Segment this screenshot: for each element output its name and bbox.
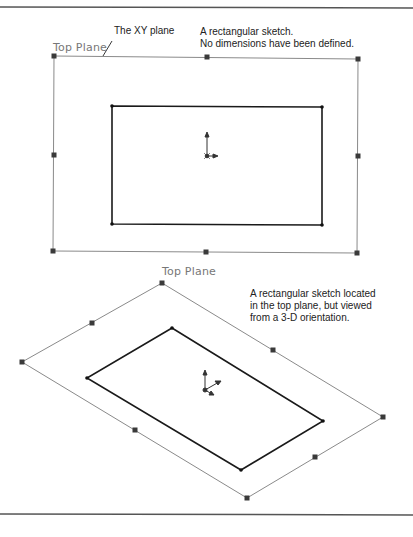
plane-handle[interactable]: [20, 360, 25, 365]
plane-handle[interactable]: [90, 321, 95, 326]
sketch-vertex[interactable]: [320, 105, 324, 109]
sketch-vertex[interactable]: [110, 222, 114, 226]
callout-xy-plane: The XY plane: [114, 25, 174, 37]
sketch-rectangle[interactable]: [112, 106, 322, 225]
rectangular-sketch-front[interactable]: [110, 104, 324, 227]
plane-handle[interactable]: [381, 415, 386, 420]
sketch-parallelogram[interactable]: [87, 328, 323, 470]
callout-iso-line1: A rectangular sketch located: [250, 288, 376, 300]
plane-handle[interactable]: [204, 250, 209, 255]
sketch-vertex[interactable]: [85, 376, 89, 380]
origin-triad-icon: [203, 370, 221, 395]
callout-sketch-line2: No dimensions have been defined.: [200, 38, 354, 50]
plane-handle[interactable]: [356, 154, 361, 159]
plane-handle[interactable]: [245, 496, 250, 501]
sketch-vertex[interactable]: [239, 468, 243, 472]
top-plane-front-view: [51, 41, 361, 256]
plane-handle[interactable]: [205, 55, 210, 60]
plane-handle[interactable]: [355, 251, 360, 256]
callout-iso-line3: from a 3-D orientation.: [250, 312, 350, 324]
plane-handle[interactable]: [313, 455, 318, 460]
plane-handle[interactable]: [160, 281, 165, 286]
sketch-vertex[interactable]: [170, 326, 174, 330]
sketch-vertex[interactable]: [321, 419, 325, 423]
sketch-vertex[interactable]: [110, 104, 114, 108]
plane-label-top-front: Top Plane: [53, 41, 107, 54]
rectangular-sketch-iso[interactable]: [85, 326, 325, 472]
plane-label-top-iso: Top Plane: [162, 265, 216, 278]
plane-handle[interactable]: [356, 57, 361, 62]
top-rule: [0, 7, 413, 8]
plane-handle[interactable]: [51, 249, 56, 254]
plane-handle[interactable]: [52, 153, 57, 158]
callout-iso-line2: in the top plane, but viewed: [250, 300, 372, 312]
bottom-rule: [0, 514, 413, 515]
callout-sketch-line1: A rectangular sketch.: [200, 26, 293, 38]
plane-handle[interactable]: [52, 54, 57, 59]
plane-handle[interactable]: [271, 348, 276, 353]
sketch-vertex[interactable]: [320, 223, 324, 227]
origin-icon: [204, 132, 218, 159]
plane-handle[interactable]: [133, 428, 138, 433]
